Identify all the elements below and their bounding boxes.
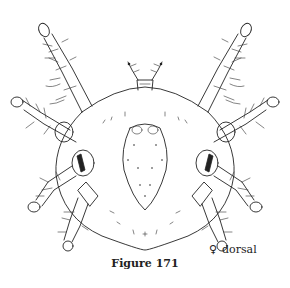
figure-caption: Figure 171 [0,257,290,270]
leg-i-right [198,22,253,112]
leg-ii-right [214,97,279,142]
female-symbol-icon: ♀ [209,243,217,256]
view-label: ♀dorsal [209,243,257,256]
body-setae [103,112,187,236]
leg-iv-left [58,182,98,251]
gnathosoma [128,62,163,90]
leg-i-left [37,22,92,112]
leg-iii-left [28,150,94,212]
leg-iii-right [196,150,262,212]
dorsal-shield [123,124,167,210]
leg-iv-right [192,182,232,251]
view-text: dorsal [222,243,257,256]
leg-ii-left [11,97,76,142]
